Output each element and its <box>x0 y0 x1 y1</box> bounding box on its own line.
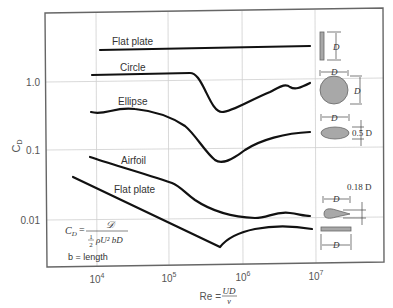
label-flat-plate-bottom: Flat plate <box>114 184 156 195</box>
grid-x-1e6 <box>242 11 243 264</box>
y-tick-0.1: 0.1 <box>26 145 40 156</box>
shape-circle-icon: D D <box>320 67 362 104</box>
svg-text:=: = <box>79 224 85 235</box>
grid-x-1e5 <box>168 12 169 265</box>
svg-text:D: D <box>330 113 338 123</box>
y-tick-0.01: 0.01 <box>21 215 41 226</box>
label-circle: Circle <box>120 62 146 73</box>
svg-text:2: 2 <box>89 241 93 249</box>
curve-ellipse <box>91 108 310 162</box>
svg-text:CD: CD <box>65 225 77 238</box>
svg-text:CD: CD <box>10 139 23 152</box>
drag-coefficient-chart: 1.0 0.1 0.01 CD 104 105 106 107 Re = UD … <box>0 0 393 308</box>
grid-x-1e4 <box>96 13 97 266</box>
svg-text:ρU² bD: ρU² bD <box>95 235 123 245</box>
y-tick-1: 1.0 <box>26 77 40 88</box>
y-axis-label: CD <box>10 139 23 152</box>
label-flat-plate-top: Flat plate <box>112 36 154 47</box>
svg-text:0.5 D: 0.5 D <box>352 128 373 138</box>
x-tick-1e6: 106 <box>235 270 250 283</box>
shape-flat-plate-parallel-icon: D <box>321 227 351 250</box>
x-tick-1e5: 105 <box>161 271 176 284</box>
svg-text:D: D <box>332 42 340 52</box>
svg-text:D: D <box>332 240 340 250</box>
grid-x-1e7 <box>315 10 316 263</box>
svg-text:UD: UD <box>223 286 236 296</box>
x-tick-1e7: 107 <box>308 269 323 282</box>
svg-text:D: D <box>332 194 340 204</box>
b-length-note: b = length <box>68 252 108 262</box>
shape-ellipse-icon: D 0.5 D <box>321 113 373 146</box>
label-airfoil: Airfoil <box>121 155 146 166</box>
svg-text:0.18 D: 0.18 D <box>347 182 372 192</box>
x-axis-label: Re = UD ν <box>200 286 237 306</box>
shape-airfoil-icon: 0.18 D D <box>323 182 372 225</box>
svg-text:D: D <box>353 86 361 96</box>
svg-text:D: D <box>330 67 338 77</box>
svg-text:ν: ν <box>227 297 231 306</box>
label-ellipse: Ellipse <box>118 96 148 107</box>
svg-text:Re =: Re = <box>200 291 222 302</box>
shape-flat-plate-normal-icon: D <box>320 32 341 60</box>
x-tick-1e4: 104 <box>89 272 104 285</box>
svg-text:𝒟: 𝒟 <box>106 219 116 230</box>
